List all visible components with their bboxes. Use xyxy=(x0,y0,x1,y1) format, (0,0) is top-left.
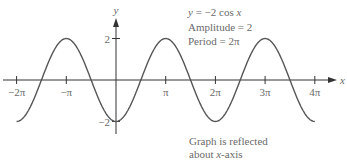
note-line-1: Graph is reflected xyxy=(189,135,268,148)
function-info: y = −2 cos x Amplitude = 2 Period = 2π xyxy=(188,5,252,49)
y-axis-label: y xyxy=(113,4,119,16)
note-suffix: -axis xyxy=(221,148,242,160)
reflection-note: Graph is reflected about x-axis xyxy=(189,135,268,161)
amplitude-label: Amplitude = 2 xyxy=(188,20,252,35)
x-axis-arrow-icon xyxy=(328,77,337,83)
axes: xy xyxy=(3,4,345,134)
y-axis-arrow-icon xyxy=(113,18,119,27)
x-tick-label: π xyxy=(163,86,169,98)
x-tick-label: 4π xyxy=(309,86,321,98)
x-axis-label: x xyxy=(339,74,345,86)
x-tick-label: 2π xyxy=(210,86,222,98)
x-tick-label: −π xyxy=(60,86,72,98)
equation-mid: = −2 cos xyxy=(193,6,237,18)
note-prefix: about xyxy=(189,148,216,160)
x-tick-label: 3π xyxy=(260,86,272,98)
y-tick-label: 2 xyxy=(105,33,111,45)
period-label: Period = 2π xyxy=(188,34,252,49)
x-tick-label: −2π xyxy=(8,86,26,98)
equation-var: x xyxy=(236,6,241,18)
cosine-graph: xy −2π−ππ2π3π4π2−2 xyxy=(0,0,347,166)
equation-label: y = −2 cos x xyxy=(188,5,252,20)
note-line-2: about x-axis xyxy=(189,148,268,161)
